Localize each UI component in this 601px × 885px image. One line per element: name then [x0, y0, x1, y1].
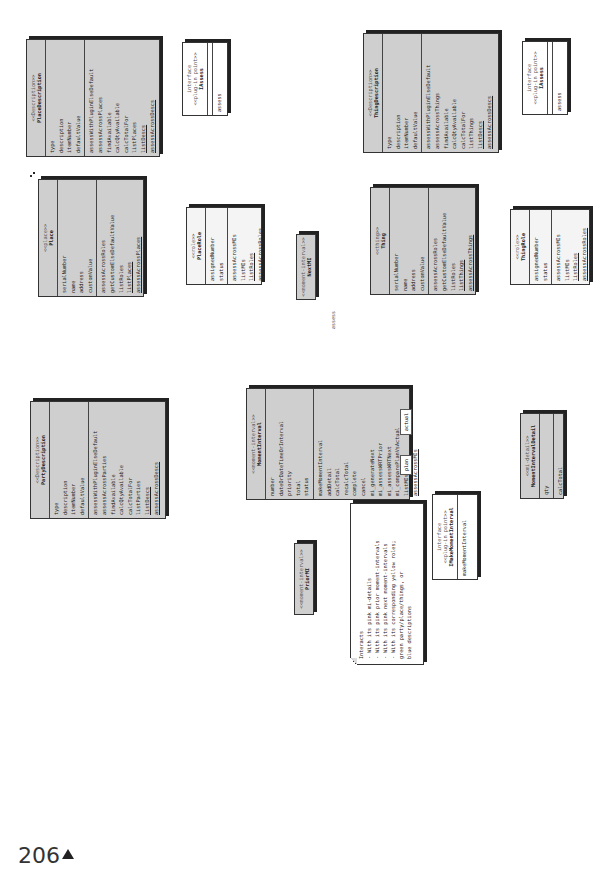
attribute: customValue	[86, 183, 95, 293]
note-line: - With its pink prior moment-intervals	[373, 509, 381, 659]
method: getCustomElseDefaultValue	[108, 183, 117, 293]
method: assess	[215, 46, 224, 112]
method: findAvailable	[442, 37, 451, 149]
method: calcTotal	[556, 417, 565, 495]
class-thing: <<thing>>Thing serialNumber name address…	[370, 187, 476, 295]
note-line: - With its corresponding yellow roles;	[389, 509, 397, 659]
method: addDetail	[325, 392, 334, 496]
attribute: description	[394, 37, 403, 149]
class-party-description-main: <<Description>>PartyDescription type des…	[30, 401, 166, 519]
method: calcTotalFor	[459, 37, 468, 149]
method: listParties	[134, 405, 143, 515]
attribute: defaultValue	[411, 37, 420, 149]
method: assessAcrossPlaces	[134, 183, 143, 293]
method: assessAcrossThings	[433, 37, 442, 149]
attribute: serialNumber	[392, 191, 401, 291]
method: calcTotalFor	[122, 43, 131, 153]
method: listRoles	[571, 213, 580, 281]
method: findAvailable	[105, 43, 114, 153]
method: assess	[330, 311, 336, 329]
class-name: PlaceDescription	[36, 42, 42, 154]
method: assessAcrossPlaces	[96, 43, 105, 153]
method: assessWithPluginElseDefault	[87, 43, 96, 153]
methods: assessWithPluginElseDefault assessAcross…	[85, 40, 158, 156]
class-name: ThingDescription	[373, 36, 379, 150]
method: calcTotal	[333, 392, 342, 496]
attribute: type	[385, 37, 394, 149]
method: listPlaces	[125, 183, 134, 293]
class-name: NextMI	[306, 237, 312, 297]
method: assessAcrossMIs	[230, 211, 239, 281]
method: calcQtyAvailable	[450, 37, 459, 149]
class-thing-description: <<Description>>ThingDescription type des…	[363, 33, 499, 153]
method: assessWithPluginElseDefault	[424, 37, 433, 149]
interface-make-moment-interval: interface<<plug-in point>>IMakeMomentInt…	[432, 494, 478, 580]
attribute: status	[217, 211, 226, 281]
method: getCustomElseDefaultValue	[440, 191, 449, 291]
attribute: customValue	[418, 191, 427, 291]
interface-name: IMakeMomentInterval	[448, 497, 454, 577]
class-thing-role: <<role>>ThingRole assignedNumber status …	[510, 209, 590, 285]
method: assessAcrossParties	[100, 405, 109, 515]
method: assessAcrossRoles	[99, 183, 108, 293]
attribute: dateOrDateTimeOrInterval	[277, 392, 286, 496]
method: listMIs	[239, 211, 248, 281]
class-name: Place	[48, 182, 54, 294]
class-party-description	[30, 175, 32, 177]
class-moment-interval: <<moment-interval>>MomentInterval number…	[246, 388, 410, 500]
uml-diagram: <<Description>>PlaceDescription type des…	[0, 0, 601, 885]
method: assessAcrossDescs	[148, 43, 157, 153]
attribute: number	[268, 392, 277, 496]
note-moment-interval: Interacts - With its pink mi-details - W…	[350, 503, 424, 665]
method: listMIs	[402, 392, 411, 496]
attribute: address	[77, 183, 86, 293]
class-name: MomentInterval	[256, 391, 262, 497]
class-name: PlaceRole	[196, 210, 202, 282]
attribute: status	[302, 392, 311, 496]
method: assessAcrossDescs	[152, 405, 161, 515]
method: mi_comparePlanVsActual	[393, 392, 402, 496]
method: assess	[555, 45, 564, 111]
method: assessAcrossDescs	[485, 37, 494, 149]
plan-label: plan	[400, 455, 412, 475]
method: assessAcrossMIs	[554, 213, 563, 281]
note-line: Interacts	[357, 509, 365, 659]
note-line: green party/place/things, or	[397, 509, 405, 659]
method: listRoles	[247, 211, 256, 281]
page-number: 206	[18, 843, 60, 868]
method: makeMomentInterval	[460, 498, 469, 576]
attribute: type	[52, 405, 61, 515]
class-place-description: <<Description>>PlaceDescription type des…	[26, 39, 160, 157]
attribute: priority	[285, 392, 294, 496]
method: assessAcrossRoles	[431, 191, 440, 291]
attribute: itemNumber	[69, 405, 78, 515]
class-name: MomentIntervalDetail	[530, 416, 536, 496]
class-mi-detail: <<mi-detail>>MomentIntervalDetail qty ca…	[520, 413, 564, 499]
method: assessAcrossRoles	[256, 211, 265, 281]
attribute: status	[541, 213, 550, 281]
interface-thing-iassess: interface<<plug-in point>>IAssess assess	[522, 41, 568, 115]
attribute: type	[48, 43, 57, 153]
note-line: - With its pink next moment-intervals	[381, 509, 389, 659]
class-name: PriorMI	[304, 546, 310, 612]
class-name: Thing	[380, 190, 386, 292]
method: calcQtyAvailable	[113, 43, 122, 153]
method: recalcTotal	[342, 392, 351, 496]
method: assessAcrossMIs	[411, 392, 420, 496]
class-next-mi: <<moment-interval>>NextMI	[296, 234, 316, 300]
method: listRoles	[449, 191, 458, 291]
attribute: name	[401, 191, 410, 291]
attribute: total	[294, 392, 303, 496]
attribute: assignedNumber	[208, 211, 217, 281]
method: calcQtyAvailable	[117, 405, 126, 515]
method: listThings	[467, 37, 476, 149]
attribute: serialNumber	[60, 183, 69, 293]
method: complete	[350, 392, 359, 496]
method: listRoles	[117, 183, 126, 293]
method: listDescs	[476, 37, 485, 149]
method: mi_assessWRTNext	[385, 392, 394, 496]
interface-name: IAssess	[198, 45, 204, 113]
actual-label: actual	[400, 409, 412, 435]
method: assessWithPluginElseDefault	[91, 405, 100, 515]
class-name: PartyDescription	[40, 404, 46, 516]
